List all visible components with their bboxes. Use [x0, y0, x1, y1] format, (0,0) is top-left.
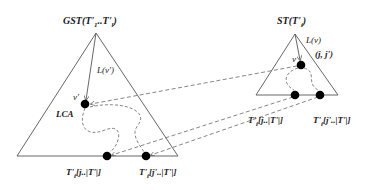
st-dashed-curve-left [286, 68, 298, 90]
gst-path-arrow [86, 33, 96, 100]
suffix-tree-diagram: GST(T'1..T'l) L(v') v' LCA T'i[j..|T'|] … [0, 0, 382, 190]
gst-dashed-curve-right [90, 105, 144, 152]
node-v [297, 61, 306, 70]
gst-leaf-label-j: T'i[j..|T'|] [66, 167, 101, 180]
gst-title: GST(T'1..T'l) [63, 15, 117, 29]
st-dashed-curve-right [304, 68, 318, 90]
st-leaf-label-jprime: T'i[j'..|T'|] [313, 115, 350, 128]
node-v-prime [81, 100, 90, 109]
map-leaf-j [112, 97, 293, 155]
st-title: ST(T'i) [277, 15, 306, 29]
gst-leaf-jprime [142, 152, 151, 161]
edge-label-l-v: L(v) [305, 35, 321, 45]
range-label: (j, j') [315, 49, 333, 59]
gst-dashed-curve-left [82, 108, 118, 152]
lca-label: LCA [55, 109, 74, 119]
node-label-v: v [292, 54, 296, 64]
gst-leaf-j [103, 152, 112, 161]
st-leaf-label-j: T'i[j..|T'|] [248, 115, 283, 128]
st-leaf-j [291, 91, 300, 100]
node-label-vprime: v' [73, 92, 80, 102]
map-leaf-jprime [151, 97, 318, 155]
st-leaf-jprime [316, 91, 325, 100]
edge-label-l-vprime: L(v') [96, 65, 114, 75]
gst-leaf-label-jprime: T'i[j'..|T'|] [139, 167, 176, 180]
gst-triangle [17, 33, 178, 156]
